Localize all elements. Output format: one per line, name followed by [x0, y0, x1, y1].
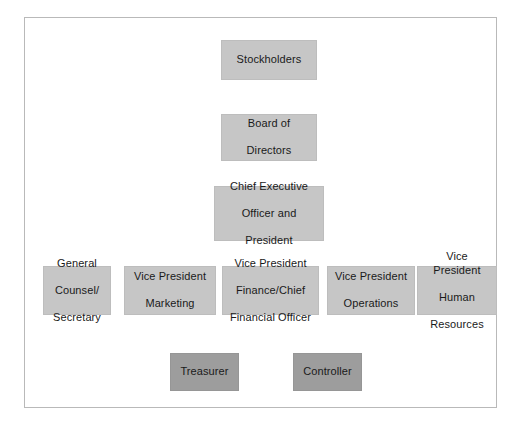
node-ceo[interactable]: Chief Executive Officer and President [214, 186, 324, 241]
node-vp-hr-line3: Resources [421, 318, 493, 332]
node-vp-marketing-label: Vice President Marketing [128, 270, 212, 311]
node-vp-finance-line3: Financial Officer [227, 311, 314, 325]
node-vp-hr-label: Vice President Human Resources [418, 250, 496, 331]
node-vp-operations-label: Vice President Operations [329, 270, 413, 311]
node-vp-finance-label: Vice President Finance/Chief Financial O… [224, 257, 317, 325]
node-general-counsel-secretary[interactable]: General Counsel/ Secretary [43, 266, 111, 315]
node-vp-human-resources[interactable]: Vice President Human Resources [417, 266, 497, 315]
node-vp-operations[interactable]: Vice President Operations [327, 266, 415, 315]
node-stockholders-label: Stockholders [234, 53, 305, 67]
node-controller[interactable]: Controller [293, 353, 362, 391]
node-vp-operations-line1: Vice President [332, 270, 410, 284]
node-general-counsel-line1: General [50, 257, 104, 271]
node-ceo-line3: President [227, 234, 311, 248]
node-ceo-line1: Chief Executive [227, 180, 311, 194]
node-vp-finance-line2: Finance/Chief [227, 284, 314, 298]
node-vp-marketing[interactable]: Vice President Marketing [124, 266, 216, 315]
node-treasurer-label: Treasurer [177, 365, 231, 379]
node-board-line2: Directors [244, 144, 295, 158]
node-vp-finance-cfo[interactable]: Vice President Finance/Chief Financial O… [222, 266, 319, 315]
node-ceo-label: Chief Executive Officer and President [224, 180, 314, 248]
node-general-counsel-line3: Secretary [50, 311, 104, 325]
node-board-of-directors[interactable]: Board of Directors [221, 114, 317, 161]
node-general-counsel-label: General Counsel/ Secretary [47, 257, 107, 325]
node-vp-marketing-line1: Vice President [131, 270, 209, 284]
node-vp-hr-line1: Vice President [421, 250, 493, 277]
node-vp-marketing-line2: Marketing [131, 297, 209, 311]
node-vp-operations-line2: Operations [332, 297, 410, 311]
node-vp-finance-line1: Vice President [227, 257, 314, 271]
node-general-counsel-line2: Counsel/ [50, 284, 104, 298]
node-treasurer[interactable]: Treasurer [170, 353, 239, 391]
node-stockholders[interactable]: Stockholders [221, 40, 317, 80]
node-controller-label: Controller [300, 365, 355, 379]
node-board-of-directors-label: Board of Directors [241, 117, 298, 158]
node-ceo-line2: Officer and [227, 207, 311, 221]
node-vp-hr-line2: Human [421, 291, 493, 305]
node-board-line1: Board of [244, 117, 295, 131]
